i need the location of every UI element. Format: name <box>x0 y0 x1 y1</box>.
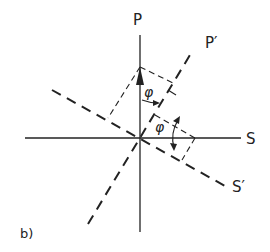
s-label: S <box>246 130 256 148</box>
p-vector-arrowhead <box>136 67 144 85</box>
panel-label: b) <box>20 226 33 241</box>
p-prime-label: P′ <box>205 34 218 52</box>
rotation-diagram: P P′ S S′ φ φ b) <box>0 0 270 252</box>
lower-angle-label: φ <box>155 119 165 135</box>
p-label: P <box>133 11 142 29</box>
s-prime-label: S′ <box>232 178 246 196</box>
p-prime-tick <box>168 90 176 95</box>
upper-angle-label: φ <box>144 84 154 100</box>
lower-angle-arrowhead-bottom <box>170 143 177 151</box>
